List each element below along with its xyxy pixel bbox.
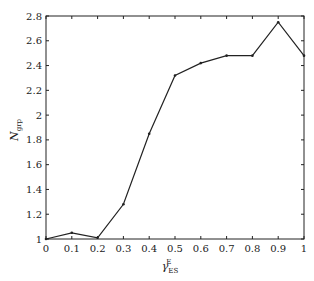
- data-point: [225, 54, 228, 57]
- x-tick-label: 0.3: [115, 243, 131, 254]
- x-tick-label: 0.1: [64, 243, 80, 254]
- x-tick-label: 0.8: [244, 243, 260, 254]
- y-axis-label: Ngrp: [8, 119, 23, 142]
- y-tick-label: 2.4: [26, 60, 42, 71]
- data-point: [200, 62, 203, 65]
- x-tick-label: 0.7: [219, 243, 235, 254]
- y-tick-label: 1.6: [26, 159, 42, 170]
- x-tick-label: 1: [301, 243, 307, 254]
- x-axis-label: γESE: [162, 258, 179, 275]
- x-tick-labels: 00.10.20.30.40.50.60.70.80.91: [43, 243, 307, 254]
- y-tick-labels: 11.21.41.61.822.22.42.62.8: [26, 11, 42, 245]
- x-tick-label: 0.5: [167, 243, 183, 254]
- data-point: [45, 238, 48, 241]
- data-point: [251, 54, 254, 57]
- data-point: [303, 54, 306, 57]
- x-tick-label: 0.2: [90, 243, 106, 254]
- data-point: [174, 74, 177, 77]
- y-tick-label: 2.2: [26, 85, 42, 96]
- x-tick-label: 0.6: [193, 243, 209, 254]
- data-point: [122, 203, 125, 206]
- x-tick-label: 0.4: [141, 243, 157, 254]
- x-tick-label: 0.9: [270, 243, 286, 254]
- y-tick-label: 1.8: [26, 134, 42, 145]
- y-tick-label: 1.4: [26, 184, 42, 195]
- line-chart: 00.10.20.30.40.50.60.70.80.91 11.21.41.6…: [0, 0, 314, 281]
- data-point: [71, 232, 74, 235]
- y-tick-label: 1: [36, 234, 42, 245]
- data-point: [277, 21, 280, 24]
- data-point: [148, 132, 151, 135]
- plot-area: [46, 16, 304, 239]
- x-tick-label: 0: [43, 243, 49, 254]
- data-point: [96, 236, 99, 239]
- y-tick-label: 2: [36, 110, 42, 121]
- y-tick-label: 1.2: [26, 209, 42, 220]
- y-tick-label: 2.8: [26, 11, 42, 22]
- y-tick-label: 2.6: [26, 35, 42, 46]
